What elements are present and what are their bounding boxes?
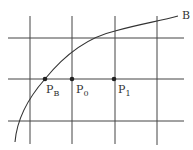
label-p1: P1 xyxy=(118,83,131,98)
point-p0 xyxy=(70,77,75,82)
label-p0: P0 xyxy=(76,83,89,98)
point-p1 xyxy=(112,77,117,82)
grid-diagram: B PB P0 P1 xyxy=(0,0,193,150)
curve-label: B xyxy=(182,9,190,22)
point-pb xyxy=(43,77,48,82)
label-pb: PB xyxy=(46,83,59,98)
grid-lines xyxy=(8,16,184,145)
